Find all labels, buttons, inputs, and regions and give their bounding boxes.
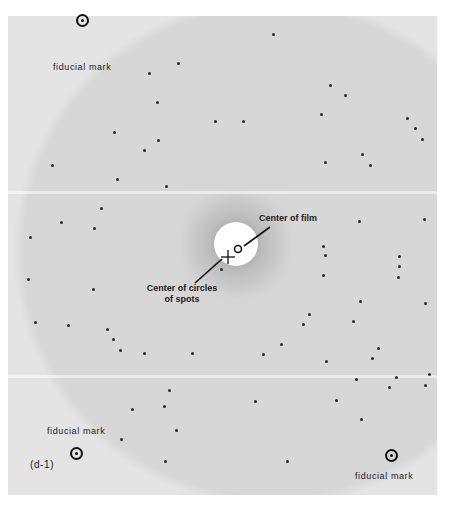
panel-label: (d-1) (30, 459, 54, 470)
center-of-film-label: Center of film (259, 213, 317, 224)
film-center-marker-icon (235, 246, 242, 253)
circles-center-cross-icon (221, 250, 235, 264)
center-of-circles-line2: of spots (132, 294, 232, 305)
film-center-leader-line (244, 227, 270, 246)
center-of-circles-label: Center of circles of spots (132, 283, 232, 305)
fiducial-label-bottom-left: fiducial mark (47, 426, 105, 436)
circles-center-leader-line (195, 259, 222, 283)
center-of-circles-line1: Center of circles (132, 283, 232, 294)
fiducial-mark-icon (76, 14, 89, 27)
fiducial-mark-icon (70, 447, 83, 460)
fiducial-label-bottom-right: fiducial mark (355, 471, 413, 481)
fiducial-label-top-left: fiducial mark (53, 62, 111, 72)
fiducial-mark-icon (385, 449, 398, 462)
